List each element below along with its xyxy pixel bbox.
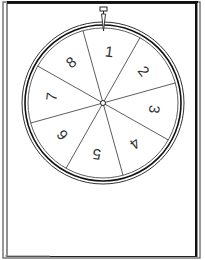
segment-divider (103, 83, 175, 103)
segment-label: 2 (135, 62, 154, 79)
segment-label: 8 (62, 53, 79, 72)
pointer-icon (100, 7, 107, 31)
segment-divider (83, 31, 103, 103)
segment-divider (31, 103, 103, 123)
segment-label: 4 (126, 135, 143, 154)
segment-label: 7 (42, 91, 60, 101)
spinner-wheel[interactable]: 12345678 (0, 0, 205, 260)
wheel-hub (101, 101, 106, 106)
segment-label: 1 (104, 42, 114, 60)
segment-label: 6 (53, 126, 72, 143)
segment-label: 5 (91, 146, 101, 164)
segment-divider (103, 103, 123, 175)
segment-label: 3 (146, 104, 164, 114)
